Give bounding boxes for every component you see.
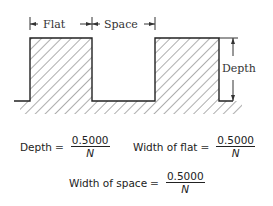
depth-label: Depth xyxy=(222,62,256,75)
width-of-flat-equation: Width of flat = 0.5000 N xyxy=(133,134,255,159)
denominator: N xyxy=(232,147,240,159)
width-of-space-lhs: Width of space xyxy=(69,177,147,189)
equals-sign: = xyxy=(200,141,209,153)
space-label: Space xyxy=(104,18,138,31)
ground-hatching xyxy=(20,101,242,114)
fraction: 0.5000 N xyxy=(166,170,205,195)
depth-dimension: Depth xyxy=(219,38,256,101)
numerator: 0.5000 xyxy=(166,170,205,183)
equals-sign: = xyxy=(55,141,64,153)
fraction: 0.5000 N xyxy=(216,134,255,159)
left-flat-tooth xyxy=(30,38,92,101)
flat-dimension: Flat xyxy=(30,17,92,31)
denominator: N xyxy=(86,147,94,159)
right-flat-tooth xyxy=(155,38,219,101)
space-dimension: Space xyxy=(92,17,155,31)
numerator: 0.5000 xyxy=(71,134,110,147)
thread-profile-diagram: Flat Space Depth xyxy=(0,0,273,130)
depth-equation-lhs: Depth xyxy=(20,141,52,153)
width-of-space-equation: Width of space = 0.5000 N xyxy=(69,170,205,195)
equals-sign: = xyxy=(150,177,159,189)
fraction: 0.5000 N xyxy=(71,134,110,159)
numerator: 0.5000 xyxy=(216,134,255,147)
denominator: N xyxy=(181,183,189,195)
width-of-flat-lhs: Width of flat xyxy=(133,141,197,153)
depth-equation: Depth = 0.5000 N xyxy=(20,134,110,159)
flat-label: Flat xyxy=(43,18,66,31)
